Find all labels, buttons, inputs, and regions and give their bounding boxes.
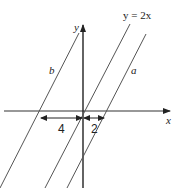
line-a-label: a: [131, 64, 137, 76]
line-center-label: y = 2x: [123, 9, 152, 21]
line-y-equals-2x: [45, 24, 130, 188]
x-axis-label: x: [165, 114, 171, 126]
y-axis-label: y: [73, 21, 79, 33]
line-b-label: b: [49, 64, 55, 76]
dimension-label-2: 2: [91, 122, 98, 136]
parallel-lines-diagram: y x b y = 2x a 4 2: [0, 0, 174, 190]
dimension-label-4: 4: [58, 122, 65, 136]
